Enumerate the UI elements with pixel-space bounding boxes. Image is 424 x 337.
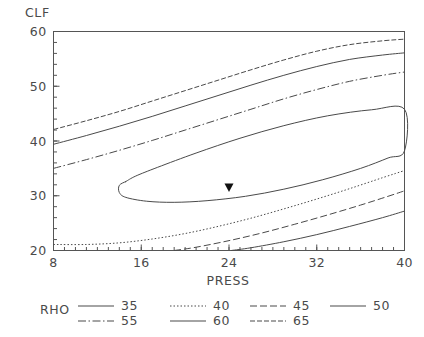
- x-axis-tick-labels: 816243240: [49, 255, 413, 270]
- contour-line-60: [54, 53, 405, 144]
- legend-label-55: 55: [121, 313, 138, 328]
- contour-plot-figure: 816243240 2030405060 CLF PRESS RHO 35404…: [0, 0, 424, 337]
- legend[interactable]: RHO 35404550556065: [40, 298, 390, 328]
- contour-line-35: [118, 106, 407, 202]
- contour-series-group: [54, 39, 408, 250]
- contour-line-50: [231, 211, 404, 250]
- x-tick-label: 16: [133, 255, 150, 270]
- legend-entry-50[interactable]: 50: [330, 298, 390, 313]
- x-tick-label: 24: [221, 255, 238, 270]
- legend-label-40: 40: [213, 298, 230, 313]
- y-tick-label: 30: [30, 188, 47, 203]
- contour-line-65: [54, 39, 405, 129]
- x-tick-label: 8: [49, 255, 57, 270]
- legend-label-35: 35: [121, 298, 138, 313]
- contour-line-55: [54, 72, 405, 168]
- legend-label-60: 60: [213, 313, 230, 328]
- y-axis-title: CLF: [25, 5, 50, 20]
- y-tick-label: 40: [30, 134, 47, 149]
- y-tick-label: 50: [30, 79, 47, 94]
- legend-entries[interactable]: 35404550556065: [78, 298, 390, 328]
- legend-entry-65[interactable]: 65: [250, 313, 310, 328]
- legend-label-45: 45: [293, 298, 310, 313]
- y-tick-label: 20: [30, 243, 47, 258]
- x-axis-title: PRESS: [207, 273, 250, 288]
- legend-label-65: 65: [293, 313, 310, 328]
- y-axis-tick-labels: 2030405060: [30, 24, 47, 258]
- x-tick-label: 32: [308, 255, 325, 270]
- legend-entry-45[interactable]: 45: [250, 298, 310, 313]
- x-axis-major-ticks: [54, 245, 405, 251]
- down-triangle-icon: [225, 184, 234, 193]
- legend-label-50: 50: [373, 298, 390, 313]
- plot-frame-group: [54, 32, 405, 251]
- legend-title: RHO: [40, 302, 70, 317]
- y-tick-label: 60: [30, 24, 47, 39]
- plot-frame: [54, 32, 405, 251]
- x-tick-label: 40: [396, 255, 413, 270]
- cursor-marker: [225, 184, 234, 193]
- legend-entry-40[interactable]: 40: [170, 298, 230, 313]
- plot-canvas: 816243240 2030405060 CLF PRESS RHO 35404…: [0, 0, 424, 337]
- legend-entry-35[interactable]: 35: [78, 298, 138, 313]
- legend-entry-60[interactable]: 60: [170, 313, 230, 328]
- legend-entry-55[interactable]: 55: [78, 313, 138, 328]
